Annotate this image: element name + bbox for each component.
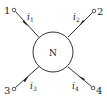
terminal-1-label: 1 <box>4 5 10 16</box>
terminal-4-label: 4 <box>96 85 102 96</box>
arrow-2-icon <box>79 20 85 26</box>
current-3-label: i3 <box>30 81 37 92</box>
terminal-2-node <box>92 9 96 13</box>
arrow-4-icon <box>78 76 85 81</box>
terminal-2-label: 2 <box>97 6 103 17</box>
terminal-4-node <box>91 86 95 90</box>
arrow-3-icon <box>24 76 30 83</box>
current-1-label: i1 <box>27 12 34 23</box>
network-label: N <box>49 48 57 58</box>
terminal-3-node <box>12 87 16 91</box>
current-2-label: i2 <box>73 12 80 23</box>
terminal-1-node <box>12 8 16 12</box>
network-diagram: N 1 i1 2 i2 3 i3 4 i4 <box>0 0 107 104</box>
diagram-svg: N 1 i1 2 i2 3 i3 4 i4 <box>0 0 107 104</box>
current-4-label: i4 <box>72 81 79 92</box>
terminal-3-label: 3 <box>4 85 10 96</box>
